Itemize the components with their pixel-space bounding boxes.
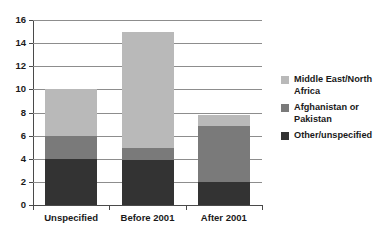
y-axis-tick-label: 10 — [15, 85, 26, 95]
legend-item[interactable]: Afghanistan or Pakistan — [281, 102, 380, 125]
y-axis-tick-label: 0 — [21, 200, 26, 210]
bar-segment — [198, 115, 250, 127]
bar-segment — [198, 182, 250, 205]
legend-item[interactable]: Other/unspecified — [281, 130, 380, 142]
y-axis-tick-label: 14 — [15, 38, 26, 48]
bar-segment — [198, 126, 250, 182]
y-axis-tick-label: 8 — [21, 108, 26, 118]
x-axis-tick-mark — [33, 206, 34, 210]
y-axis-tick-mark — [29, 43, 33, 44]
y-axis-tick-label: 6 — [21, 131, 26, 141]
x-axis-tick-mark — [109, 206, 110, 210]
y-axis-tick-mark — [29, 136, 33, 137]
legend-label: Other/unspecified — [294, 130, 372, 142]
y-axis-tick-mark — [29, 20, 33, 21]
legend-label: Afghanistan or Pakistan — [294, 102, 380, 125]
stacked-bar-chart: 0246810121416 UnspecifiedBefore 2001Afte… — [0, 0, 381, 236]
bar-segment — [122, 32, 174, 149]
y-axis-tick-label: 16 — [15, 15, 26, 25]
y-axis-tick-mark — [29, 89, 33, 90]
gridline — [33, 205, 262, 206]
y-axis-tick-label: 12 — [15, 62, 26, 72]
legend-swatch-icon — [281, 76, 289, 84]
chart-legend: Middle East/North AfricaAfghanistan or P… — [281, 74, 380, 147]
y-axis-tick-label: 2 — [21, 177, 26, 187]
y-axis-tick-mark — [29, 113, 33, 114]
bar-group — [122, 20, 174, 205]
x-axis-tick-mark — [262, 206, 263, 210]
legend-swatch-icon — [281, 132, 289, 140]
x-axis-tick-label: Before 2001 — [121, 213, 175, 223]
bar-segment — [122, 148, 174, 160]
x-axis-tick-label: After 2001 — [201, 213, 247, 223]
plot-area: 0246810121416 — [33, 20, 262, 205]
bar-segment — [45, 159, 97, 205]
legend-label: Middle East/North Africa — [294, 74, 380, 97]
bar-segment — [122, 160, 174, 205]
x-axis-tick-label: Unspecified — [44, 213, 98, 223]
y-axis-tick-mark — [29, 66, 33, 67]
y-axis-tick-label: 4 — [21, 154, 26, 164]
bar-segment — [45, 136, 97, 159]
bar-segment — [45, 89, 97, 135]
bar-group — [45, 20, 97, 205]
y-axis-tick-mark — [29, 159, 33, 160]
legend-swatch-icon — [281, 104, 289, 112]
legend-item[interactable]: Middle East/North Africa — [281, 74, 380, 97]
y-axis-tick-mark — [29, 182, 33, 183]
bar-group — [198, 20, 250, 205]
x-axis-tick-mark — [186, 206, 187, 210]
